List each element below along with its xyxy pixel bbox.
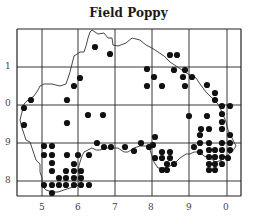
record-dot [78,168,84,174]
record-dot [144,83,150,89]
record-dot [100,112,106,118]
record-dot [71,168,77,174]
record-dot [206,126,212,132]
record-dot [227,147,233,153]
record-dot [85,112,91,118]
record-dot [71,182,77,188]
y-axis-label: 9 [5,137,11,147]
record-dot [206,161,212,167]
record-dot [150,142,156,148]
record-dot [212,167,218,173]
record-dot [204,82,210,88]
record-dot [227,140,233,146]
record-dot [206,140,212,146]
record-dot [219,126,225,132]
record-dot [219,111,225,117]
x-axis-label: 8 [148,202,154,212]
record-dot [225,155,231,161]
record-dot [41,152,47,158]
record-dot [56,175,62,181]
record-dot [212,147,218,153]
record-dot [198,126,204,132]
record-dot [212,154,218,160]
record-dot [197,140,203,146]
record-dot [56,182,62,188]
record-dot [164,167,170,173]
record-dot [71,175,77,181]
record-dot [64,120,70,126]
record-dot [49,168,55,174]
record-dot [204,113,210,119]
coastline [20,30,236,192]
record-dot [71,161,77,167]
distribution-map [0,0,257,224]
record-dot [101,144,107,150]
y-axis-label: 1 [5,61,11,71]
record-dot [191,144,197,150]
x-axis-label: 7 [112,202,118,212]
record-dot [41,143,47,149]
y-axis-label: 0 [5,98,11,108]
record-dot [206,167,212,173]
record-dot [186,113,192,119]
record-dot [227,103,233,109]
record-dot [78,182,84,188]
record-dot [212,161,218,167]
record-dot [49,160,55,166]
record-dot [159,155,165,161]
record-dot [64,97,70,103]
record-dot [94,140,100,146]
record-dot [197,149,203,155]
record-dot [63,182,69,188]
x-axis-label: 0 [223,202,229,212]
record-dot [122,144,128,150]
record-dot [197,132,203,138]
record-dot [63,168,69,174]
record-dot [219,161,225,167]
record-dot [144,66,150,72]
record-dot [71,83,77,89]
record-dot [212,90,218,96]
record-dot [219,147,225,153]
record-dot [189,74,195,80]
record-dot [167,52,173,58]
record-dot [49,143,55,149]
x-axis-label: 5 [39,202,45,212]
record-dot [219,140,225,146]
record-dot [227,132,233,138]
record-dot [219,103,225,109]
y-axis-label: 8 [5,175,11,185]
record-dot [138,140,144,146]
record-dot [21,105,27,111]
record-dot [49,182,55,188]
record-dot [107,51,113,57]
record-dot [86,152,92,158]
record-dot [219,119,225,125]
record-dot [92,44,98,50]
record-dot [41,182,47,188]
record-dot [159,83,165,89]
record-dot [64,152,70,158]
record-dot [28,97,34,103]
record-dot [78,175,84,181]
record-dot [212,97,218,103]
record-dot [182,67,188,73]
record-dot [131,148,137,154]
record-dot [206,147,212,153]
record-dot [49,152,55,158]
record-dot [152,134,158,140]
record-dot [63,175,69,181]
record-dot [159,149,165,155]
record-dot [180,74,186,80]
record-dot [164,161,170,167]
record-dot [206,154,212,160]
record-dot [108,144,114,150]
record-dot [174,52,180,58]
record-dot [49,190,55,196]
record-dot [152,155,158,161]
record-dot [171,67,177,73]
record-dot [167,149,173,155]
record-dot [151,74,157,80]
record-dot [77,75,83,81]
record-dot [21,122,27,128]
